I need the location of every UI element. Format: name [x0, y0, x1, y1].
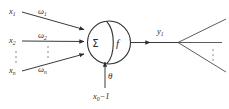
bias-input-group: θ x0−1: [92, 62, 113, 102]
input-label-n: xn: [8, 65, 16, 76]
input-label-2: x2: [8, 35, 16, 46]
output-fan-group: [178, 19, 226, 72]
summation-symbol: Σ: [92, 38, 98, 49]
fan-branch-lower: [178, 43, 226, 73]
input-column-ellipsis: [15, 51, 17, 63]
input-label-group: x1 x2 xn: [8, 6, 16, 76]
output-edge-group: y1: [131, 26, 179, 43]
weight-column-ellipsis: [47, 46, 49, 58]
neuron-svg-canvas: x1 x2 xn ω1 ω2 ωn: [0, 0, 229, 109]
bias-source-label: x0−1: [92, 91, 110, 102]
input-edge-n: [22, 54, 84, 71]
weight-label-1: ω1: [38, 6, 47, 17]
weight-label-n: ωn: [38, 64, 47, 75]
weight-label-2: ω2: [38, 30, 47, 41]
threshold-label: θ: [108, 71, 113, 81]
input-edge-2: [22, 41, 84, 42]
input-edge-group: [22, 12, 84, 71]
output-label: y1: [156, 26, 164, 37]
fan-branch-upper: [178, 19, 226, 43]
output-fan-ellipsis: [212, 49, 214, 61]
neuron-body: Σ f: [88, 21, 131, 64]
neuron-diagram: x1 x2 xn ω1 ω2 ωn: [0, 0, 229, 109]
input-label-1: x1: [8, 6, 16, 17]
input-edge-1: [22, 12, 84, 30]
